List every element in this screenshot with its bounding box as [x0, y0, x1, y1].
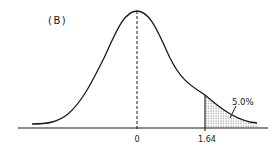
mean-tick-label: 0 [134, 135, 139, 144]
tail-area-label: 5.0% [232, 97, 254, 107]
normal-distribution-figure: (B) 0 1.64 5.0% [0, 0, 276, 152]
bell-curve [32, 11, 257, 124]
panel-label: (B) [48, 15, 67, 26]
critical-value-tick-label: 1.64 [198, 135, 216, 144]
